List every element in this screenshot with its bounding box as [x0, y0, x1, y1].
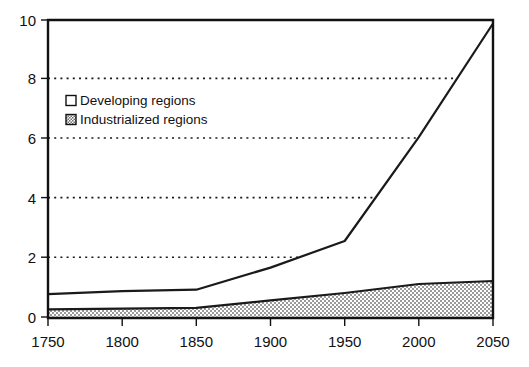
y-axis-label-6: 6	[28, 130, 36, 147]
y-axis-label-4: 4	[28, 190, 36, 207]
x-axis-label-1900: 1900	[254, 333, 287, 350]
legend-label-industrialized-regions: Industrialized regions	[80, 112, 208, 127]
chart-canvas: 10 8 6 4 2 0 1750 1800 1850 1900 1950 20…	[0, 0, 529, 367]
x-axis-label-1750: 1750	[31, 333, 64, 350]
legend-item-developing-regions: Developing regions	[66, 93, 196, 108]
legend-swatch-hatched-square-icon	[66, 115, 76, 125]
x-axis-label-1800: 1800	[106, 333, 139, 350]
x-axis-label-1850: 1850	[180, 333, 213, 350]
y-axis-label-10: 10	[19, 12, 36, 29]
legend-label-developing-regions: Developing regions	[80, 93, 196, 108]
y-axis-labels: 10 8 6 4 2 0	[19, 12, 36, 326]
x-axis-label-2050: 2050	[476, 333, 509, 350]
y-axis-label-8: 8	[28, 70, 36, 87]
population-area-chart: 10 8 6 4 2 0 1750 1800 1850 1900 1950 20…	[0, 0, 529, 367]
x-axis-label-1950: 1950	[328, 333, 361, 350]
y-axis-label-2: 2	[28, 249, 36, 266]
y-axis-label-0: 0	[28, 309, 36, 326]
x-axis-label-2000: 2000	[402, 333, 435, 350]
legend-item-industrialized-regions: Industrialized regions	[66, 112, 208, 127]
legend-swatch-open-square-icon	[66, 96, 76, 106]
x-axis-labels: 1750 1800 1850 1900 1950 2000 2050	[31, 333, 509, 350]
